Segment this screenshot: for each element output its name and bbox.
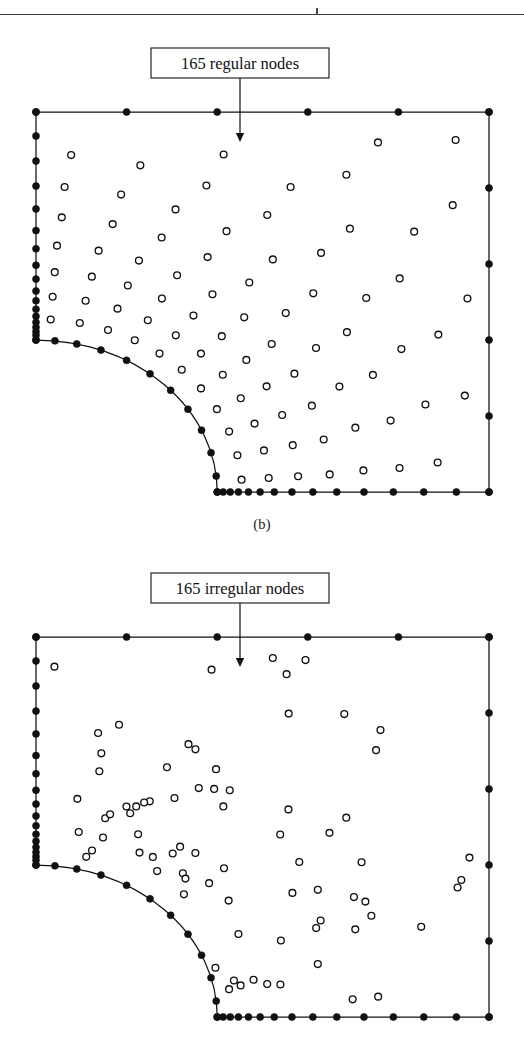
interior-node xyxy=(61,184,68,191)
boundary-node-right xyxy=(486,862,493,869)
interior-node xyxy=(177,843,184,850)
boundary-node-right xyxy=(486,634,493,641)
interior-node xyxy=(387,417,394,424)
boundary-node-left xyxy=(33,683,40,690)
page-header-rule xyxy=(0,14,524,15)
boundary-node-left xyxy=(33,812,40,819)
boundary-node-left xyxy=(33,245,40,252)
boundary-node-bottom xyxy=(453,489,460,496)
interior-node xyxy=(206,880,213,887)
boundary-node-top xyxy=(304,634,311,641)
interior-node xyxy=(211,786,218,793)
boundary-node-bottom xyxy=(257,489,264,496)
irregular-node-diagram: 165 irregular nodes xyxy=(0,565,524,1040)
interior-node xyxy=(214,406,221,413)
boundary-node-bottom xyxy=(288,1014,295,1021)
interior-node xyxy=(220,803,227,810)
interior-node xyxy=(156,350,163,357)
interior-node xyxy=(95,730,102,737)
boundary-node-arc xyxy=(214,489,221,496)
interior-node xyxy=(318,249,325,256)
interior-node xyxy=(185,741,192,748)
interior-node xyxy=(74,795,81,802)
boundary-node-bottom xyxy=(486,489,493,496)
interior-node xyxy=(241,314,248,321)
interior-node xyxy=(310,290,317,297)
interior-node xyxy=(209,291,216,298)
boundary-node-arc xyxy=(167,912,174,919)
boundary-node-left xyxy=(33,634,40,641)
boundary-node-bottom xyxy=(227,489,234,496)
interior-node xyxy=(220,151,227,158)
interior-node xyxy=(461,392,468,399)
interior-node xyxy=(141,799,148,806)
boundary-node-right xyxy=(486,261,493,268)
boundary-node-bottom xyxy=(390,489,397,496)
boundary-node-arc xyxy=(33,337,40,344)
interior-node xyxy=(454,884,461,891)
interior-node xyxy=(279,412,286,419)
interior-node xyxy=(349,996,356,1003)
interior-node xyxy=(192,746,199,753)
interior-node xyxy=(178,366,185,373)
boundary-node-left xyxy=(33,708,40,715)
interior-node xyxy=(89,847,96,854)
interior-node xyxy=(172,206,179,213)
interior-node xyxy=(190,312,197,319)
interior-node xyxy=(264,212,271,219)
interior-node xyxy=(466,854,473,861)
boundary-node-arc xyxy=(208,449,215,456)
boundary-node-top xyxy=(395,634,402,641)
interior-node xyxy=(149,854,156,861)
boundary-node-left xyxy=(33,297,40,304)
boundary-node-arc xyxy=(214,1014,221,1021)
interior-node xyxy=(358,859,365,866)
interior-node xyxy=(411,228,418,235)
interior-node xyxy=(234,452,241,459)
boundary-node-arc xyxy=(97,347,104,354)
boundary-node-left xyxy=(33,132,40,139)
interior-node xyxy=(96,768,103,775)
interior-node xyxy=(347,225,354,232)
boundary-node-top xyxy=(123,634,130,641)
interior-node xyxy=(174,272,181,279)
interior-node xyxy=(181,891,188,898)
boundary-node-top xyxy=(214,634,221,641)
interior-node xyxy=(54,242,61,249)
boundary-node-bottom xyxy=(309,1014,316,1021)
interior-node xyxy=(203,182,210,189)
interior-node xyxy=(287,184,294,191)
interior-node xyxy=(223,228,230,235)
interior-node xyxy=(164,764,171,771)
interior-node xyxy=(226,787,233,794)
boundary-node-arc xyxy=(97,872,104,879)
interior-node xyxy=(226,428,233,435)
boundary-node-arc xyxy=(213,998,220,1005)
interior-node xyxy=(198,385,205,392)
boundary-node-arc xyxy=(184,931,191,938)
boundary-node-arc xyxy=(198,427,205,434)
interior-node xyxy=(238,476,245,483)
interior-node xyxy=(182,875,189,882)
interior-node xyxy=(118,191,125,198)
boundary-node-right xyxy=(486,413,493,420)
interior-node xyxy=(373,747,380,754)
interior-node xyxy=(75,829,82,836)
boundary-node-bottom xyxy=(257,1014,264,1021)
interior-node xyxy=(269,256,276,263)
boundary-node-bottom xyxy=(333,1014,340,1021)
interior-node xyxy=(107,811,114,818)
interior-node xyxy=(326,829,333,836)
boundary-node-bottom xyxy=(333,489,340,496)
interior-node xyxy=(137,162,144,169)
interior-node xyxy=(58,214,65,221)
boundary-node-bottom xyxy=(420,1014,427,1021)
interior-node xyxy=(370,372,377,379)
interior-node xyxy=(250,976,257,983)
interior-node xyxy=(362,898,369,905)
interior-node xyxy=(360,467,367,474)
boundary-node-bottom xyxy=(360,1014,367,1021)
interior-node xyxy=(218,333,225,340)
interior-node xyxy=(449,202,456,209)
figure-page: 165 regular nodes (b) 165 irregular node… xyxy=(0,0,524,1040)
